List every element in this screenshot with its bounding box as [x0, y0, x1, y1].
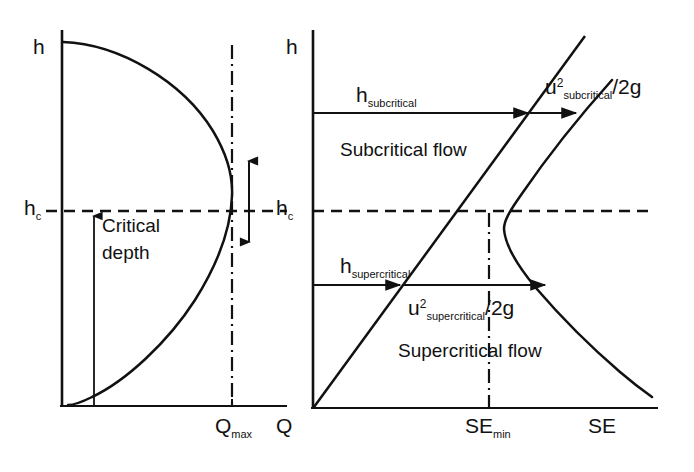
critical-depth-annotation-line2: depth [102, 243, 150, 262]
u2-supercritical-divisor: /2g [485, 296, 514, 319]
right-hc-subscript: c [288, 210, 294, 222]
semin-symbol: SE [465, 414, 493, 437]
left-hc-subscript: c [36, 210, 42, 222]
semin-axis-tick-label: SEmin [465, 415, 511, 436]
u2-subcritical-label: u2subcritical/2g [545, 76, 641, 97]
right-x-axis-label: SE [588, 415, 616, 436]
subcritical-region-label: Subcritical flow [340, 140, 467, 159]
u2-subcritical-superscript: 2 [557, 76, 564, 90]
h-supercritical-label: hsupercritical [340, 255, 410, 276]
u2-subcritical-symbol: u [545, 75, 557, 98]
u2-supercritical-symbol: u [408, 296, 420, 319]
right-critical-depth-label: hc [276, 197, 293, 218]
semin-subscript: min [493, 428, 511, 440]
u2-supercritical-subscript: supercritical [426, 310, 485, 322]
qmax-symbol: Q [215, 414, 231, 437]
h-supercritical-symbol: h [340, 254, 352, 277]
u2-supercritical-label: u2supercritical/2g [408, 297, 514, 318]
u2-supercritical-superscript: 2 [420, 297, 427, 311]
left-hc-symbol: h [24, 196, 36, 219]
h-subcritical-label: hsubcritical [356, 84, 417, 105]
qmax-axis-tick-label: Qmax [215, 415, 252, 436]
left-x-axis-label: Q [276, 415, 292, 436]
figure-canvas [0, 0, 694, 472]
h-subcritical-symbol: h [356, 83, 368, 106]
qmax-subscript: max [231, 428, 252, 440]
left-y-axis-label: h [33, 36, 45, 57]
supercritical-region-label: Supercritical flow [398, 341, 542, 360]
specific-energy-figure: h hc Critical depth Qmax Q h hc hsubcrit… [0, 0, 694, 472]
u2-subcritical-subscript: subcritical [563, 89, 612, 101]
critical-depth-annotation-line1: Critical [102, 216, 160, 235]
right-hc-symbol: h [276, 196, 288, 219]
h-subcritical-subscript: subcritical [368, 97, 417, 109]
right-y-axis-label: h [286, 36, 298, 57]
h-supercritical-subscript: supercritical [352, 268, 411, 280]
u2-subcritical-divisor: /2g [612, 75, 641, 98]
left-critical-depth-label: hc [24, 197, 41, 218]
